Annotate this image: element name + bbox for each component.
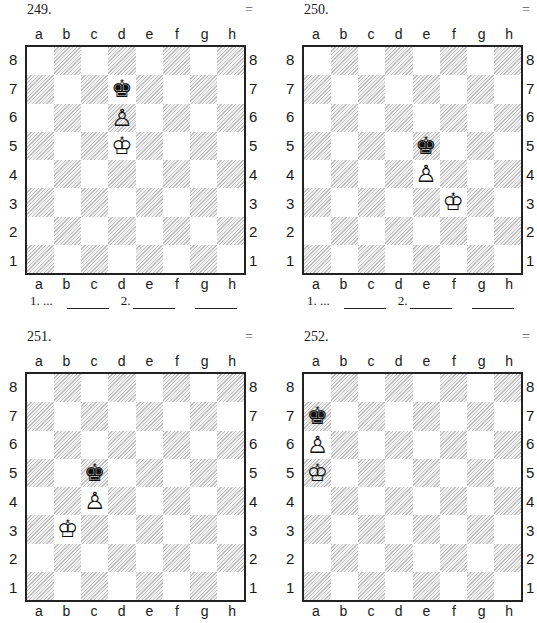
square-h5 (494, 132, 521, 160)
answer-blank[interactable] (472, 298, 514, 309)
square-f2 (163, 217, 190, 245)
square-h6 (494, 431, 521, 459)
square-a6 (27, 431, 54, 459)
square-a2 (304, 217, 331, 245)
rank-label: 6 (9, 103, 17, 132)
square-a1 (27, 245, 54, 273)
square-f5 (440, 459, 467, 487)
square-c8 (81, 47, 108, 75)
square-c5 (358, 459, 385, 487)
square-c1 (81, 245, 108, 273)
file-label: b (330, 603, 358, 619)
square-b2 (331, 217, 358, 245)
square-a6 (27, 104, 54, 132)
square-a2 (27, 217, 54, 245)
move-number-2: 2. (398, 293, 408, 309)
answer-blank[interactable] (344, 298, 386, 309)
file-label: e (413, 603, 441, 619)
rank-label: 1 (9, 573, 17, 602)
file-label: f (440, 603, 468, 619)
rank-label: 5 (9, 458, 17, 487)
answer-blank[interactable] (195, 298, 237, 309)
square-c7 (81, 75, 108, 103)
square-g8 (467, 47, 494, 75)
square-c2 (81, 217, 108, 245)
answer-blank[interactable] (133, 298, 175, 309)
square-h2 (494, 217, 521, 245)
square-f6 (440, 104, 467, 132)
square-g7 (467, 402, 494, 430)
square-c4 (81, 160, 108, 188)
chess-diagram-249: 249. = abcdefgh 87654321 ♚♙♔ 87654321 ab… (0, 0, 270, 300)
square-f5 (440, 132, 467, 160)
square-d5 (108, 459, 135, 487)
square-d1 (385, 572, 412, 600)
square-a4 (27, 487, 54, 515)
square-d8 (108, 47, 135, 75)
square-h1 (494, 572, 521, 600)
file-label: d (108, 276, 136, 292)
square-g2 (190, 217, 217, 245)
square-b5 (331, 132, 358, 160)
square-d2 (108, 217, 135, 245)
square-f7 (440, 75, 467, 103)
square-c3 (81, 515, 108, 543)
square-f5 (163, 459, 190, 487)
file-label: c (357, 276, 385, 292)
rank-labels-left: 87654321 (286, 372, 294, 602)
square-e4: ♙ (413, 160, 440, 188)
square-g6 (467, 104, 494, 132)
square-e2 (136, 217, 163, 245)
rank-label: 1 (526, 573, 534, 602)
answer-blank[interactable] (410, 298, 452, 309)
square-h8 (217, 47, 244, 75)
rank-label: 4 (9, 160, 17, 189)
square-b8 (331, 47, 358, 75)
rank-label: 7 (526, 401, 534, 430)
answer-blank[interactable] (67, 298, 109, 309)
square-a3 (304, 515, 331, 543)
rank-label: 7 (286, 401, 294, 430)
file-label: f (440, 353, 468, 369)
square-b3 (331, 515, 358, 543)
evaluation-symbol: = (522, 329, 530, 345)
file-label: g (191, 276, 219, 292)
file-label: a (25, 276, 53, 292)
square-f1 (163, 245, 190, 273)
file-label: b (53, 26, 81, 42)
square-d8 (385, 47, 412, 75)
square-g5 (467, 459, 494, 487)
square-f2 (440, 217, 467, 245)
square-e8 (413, 47, 440, 75)
rank-label: 2 (526, 545, 534, 574)
move-number-1: 1. ... (307, 293, 330, 309)
rank-label: 4 (9, 487, 17, 516)
rank-label: 8 (249, 372, 257, 401)
square-e4 (136, 160, 163, 188)
file-labels-bottom: abcdefgh (25, 603, 246, 619)
rank-label: 3 (286, 516, 294, 545)
file-label: e (136, 353, 164, 369)
rank-label: 2 (526, 218, 534, 247)
rank-label: 7 (249, 401, 257, 430)
square-g4 (467, 160, 494, 188)
rank-label: 8 (286, 372, 294, 401)
square-e6 (413, 431, 440, 459)
square-a1 (304, 572, 331, 600)
black-king-icon: ♚ (415, 134, 437, 158)
square-e4 (136, 487, 163, 515)
chess-board: ♚♙♔ (25, 45, 246, 275)
square-c6 (358, 104, 385, 132)
square-c6 (358, 431, 385, 459)
square-a7 (304, 75, 331, 103)
white-king-icon: ♔ (442, 190, 464, 214)
file-label: b (53, 276, 81, 292)
file-label: f (163, 603, 191, 619)
rank-label: 3 (526, 189, 534, 218)
square-f4 (440, 160, 467, 188)
square-a3 (27, 515, 54, 543)
square-e5: ♚ (413, 132, 440, 160)
move-number-1: 1. ... (30, 293, 53, 309)
square-f2 (163, 544, 190, 572)
rank-label: 6 (286, 430, 294, 459)
